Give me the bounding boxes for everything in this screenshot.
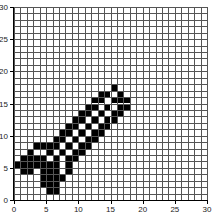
x-tick-label: 25 bbox=[170, 205, 179, 214]
grid-line bbox=[14, 104, 207, 105]
y-tick bbox=[10, 71, 13, 72]
grid-line bbox=[188, 7, 189, 200]
x-tick bbox=[207, 201, 208, 204]
grid-line bbox=[162, 7, 163, 200]
y-tick bbox=[10, 7, 13, 8]
x-tick-label: 0 bbox=[12, 205, 16, 214]
y-tick-label: 25 bbox=[0, 35, 8, 44]
x-tick-label: 30 bbox=[203, 205, 212, 214]
x-tick bbox=[78, 201, 79, 204]
grid-line bbox=[14, 149, 207, 150]
grid-line bbox=[14, 187, 207, 188]
grid-line bbox=[14, 136, 207, 137]
grid-line bbox=[136, 7, 137, 200]
x-tick bbox=[175, 201, 176, 204]
grid-line bbox=[130, 7, 131, 200]
y-tick bbox=[10, 200, 13, 201]
x-tick bbox=[46, 201, 47, 204]
grid-line bbox=[181, 7, 182, 200]
y-tick-label: 20 bbox=[0, 67, 8, 76]
grid-line bbox=[14, 181, 207, 182]
grid-line bbox=[14, 116, 207, 117]
y-tick-label: 15 bbox=[0, 99, 8, 108]
y-tick-label: 0 bbox=[4, 196, 8, 205]
grid-line bbox=[207, 7, 208, 200]
grid-line bbox=[14, 142, 207, 143]
grid-line bbox=[143, 7, 144, 200]
y-tick-label: 30 bbox=[0, 3, 8, 12]
grid-line bbox=[194, 7, 195, 200]
grid-line bbox=[175, 7, 176, 200]
x-tick-label: 20 bbox=[138, 205, 147, 214]
x-tick-label: 15 bbox=[106, 205, 115, 214]
y-tick-label: 5 bbox=[4, 163, 8, 172]
grid-line bbox=[168, 7, 169, 200]
grid-line bbox=[14, 174, 207, 175]
x-tick bbox=[143, 201, 144, 204]
grid-line bbox=[14, 110, 207, 111]
grid-line bbox=[14, 129, 207, 130]
y-tick bbox=[10, 136, 13, 137]
y-tick bbox=[10, 168, 13, 169]
grid-line bbox=[14, 123, 207, 124]
x-tick-label: 5 bbox=[44, 205, 48, 214]
grid-line bbox=[14, 168, 207, 169]
y-axis bbox=[13, 7, 14, 201]
grid-line bbox=[14, 161, 207, 162]
grid-line bbox=[123, 7, 124, 200]
grid-line bbox=[14, 155, 207, 156]
x-tick bbox=[111, 201, 112, 204]
grid-line bbox=[149, 7, 150, 200]
y-tick bbox=[10, 104, 13, 105]
grid-line bbox=[117, 7, 118, 200]
x-tick-label: 10 bbox=[74, 205, 83, 214]
grid-line bbox=[201, 7, 202, 200]
grid-line bbox=[14, 194, 207, 195]
grid-line bbox=[156, 7, 157, 200]
x-tick bbox=[14, 201, 15, 204]
pixel-grid bbox=[14, 7, 207, 200]
y-tick bbox=[10, 39, 13, 40]
y-tick-label: 10 bbox=[0, 131, 8, 140]
